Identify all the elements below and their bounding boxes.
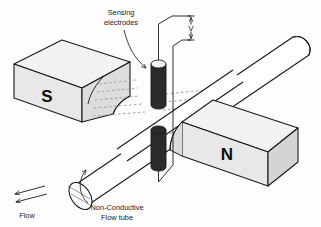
flow-arrow-2 bbox=[16, 194, 47, 202]
flow-tube-label-line2: Flow tube bbox=[101, 213, 133, 222]
diagram-canvas: S bbox=[0, 0, 321, 227]
lower-electrode-cap bbox=[151, 126, 166, 134]
magnetic-flowmeter-diagram: S bbox=[0, 0, 321, 227]
sensing-electrodes-label-line2: electrodes bbox=[104, 18, 138, 27]
flow-arrow-1 bbox=[15, 186, 45, 194]
flow-annotation: Flow bbox=[15, 186, 47, 220]
upper-electrode-cap bbox=[151, 60, 166, 68]
voltage-wire-upper bbox=[159, 16, 192, 24]
flow-label: Flow bbox=[19, 211, 35, 220]
south-magnet: S bbox=[14, 40, 130, 122]
south-pole-letter: S bbox=[41, 87, 52, 106]
voltage-label: V bbox=[188, 24, 194, 33]
lower-electrode-body bbox=[151, 130, 166, 171]
upper-electrode-body bbox=[151, 64, 166, 109]
upper-electrode bbox=[151, 24, 166, 109]
flow-tube-label-line1: Non-Conductive bbox=[91, 203, 144, 212]
voltage-wire-lower bbox=[173, 40, 191, 46]
sensing-electrodes-label-line1: Sensing bbox=[108, 8, 135, 17]
voltage-measurement: V bbox=[159, 16, 195, 46]
north-pole-letter: N bbox=[221, 145, 233, 164]
